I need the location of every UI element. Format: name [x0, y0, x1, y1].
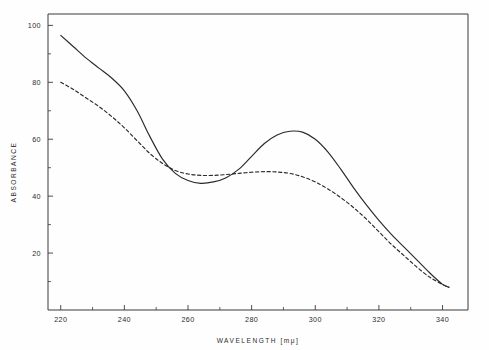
x-tick-label: 220: [54, 315, 67, 324]
y-tick-label: 80: [32, 78, 41, 87]
x-tick-label: 300: [309, 315, 322, 324]
chart-canvas: 220240260280300320340 20406080100 WAVELE…: [0, 0, 489, 350]
y-tick-label: 60: [32, 135, 41, 144]
y-tick-label: 20: [32, 249, 41, 258]
y-tick-label: 40: [32, 192, 41, 201]
x-tick-label: 320: [372, 315, 385, 324]
y-axis-title: ABSORBANCE: [10, 142, 17, 203]
x-axis-title: WAVELENGTH [mμ]: [217, 337, 300, 345]
x-tick-label: 280: [245, 315, 258, 324]
x-tick-label: 260: [181, 315, 194, 324]
x-tick-label: 340: [436, 315, 449, 324]
x-tick-label: 240: [118, 315, 131, 324]
absorption-spectrum-figure: 220240260280300320340 20406080100 WAVELE…: [0, 0, 489, 350]
figure-background: [0, 0, 489, 350]
y-tick-label: 100: [28, 21, 41, 30]
